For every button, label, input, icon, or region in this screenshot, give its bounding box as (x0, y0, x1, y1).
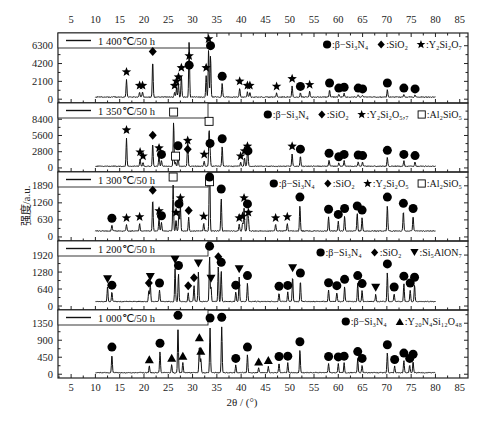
circle-marker-icon (399, 199, 408, 208)
bottom-x-tick-label: 40 (236, 382, 247, 393)
triangle-down-marker-icon (235, 265, 244, 273)
top-x-tick-label: 5 (68, 14, 73, 25)
bottom-x-tick-label: 50 (284, 382, 295, 393)
triangle-down-marker-icon (371, 284, 380, 292)
top-x-tick-label: 55 (309, 14, 320, 25)
circle-marker-icon (296, 268, 305, 277)
star-marker-icon (199, 211, 209, 220)
y-tick-label: 4200 (32, 58, 53, 69)
top-x-tick-label: 70 (382, 14, 393, 25)
circle-marker-icon (217, 258, 226, 267)
circle-marker-icon (218, 134, 227, 143)
top-x-tick-label: 10 (90, 14, 101, 25)
circle-marker-icon (411, 151, 420, 160)
star-marker-icon (417, 40, 426, 48)
triangle-up-marker-icon (178, 352, 187, 360)
triangle-up-marker-icon (167, 354, 176, 362)
y-tick-label: 640 (37, 284, 53, 295)
top-x-tick-label: 75 (406, 14, 417, 25)
top-x-axis: 510152025303540455055606570758085 (68, 14, 465, 25)
y-tick-label: 1350 (32, 318, 53, 329)
bottom-x-tick-label: 45 (260, 382, 271, 393)
circle-marker-icon (243, 199, 252, 208)
bottom-x-tick-label: 85 (454, 382, 465, 393)
y-tick-label: 5600 (32, 130, 53, 141)
bottom-x-axis: 510152025303540455055606570758085 (68, 382, 465, 393)
triangle-down-marker-icon (207, 275, 216, 283)
star-marker-icon (177, 63, 187, 72)
circle-marker-icon (316, 248, 324, 256)
circle-marker-icon (410, 273, 419, 282)
circle-marker-icon (231, 354, 240, 363)
circle-marker-icon (157, 211, 166, 220)
circle-marker-icon (411, 84, 420, 93)
condition-label: 1 200℃/50 h (98, 244, 156, 255)
diamond-marker-icon (371, 248, 378, 256)
legend-label: :Y₂₀N₄Si₁₂O₄₈ (405, 316, 463, 327)
circle-marker-icon (324, 205, 333, 214)
circle-marker-icon (206, 313, 215, 322)
square-marker-icon (205, 117, 213, 125)
legend-label: :SiO₂ (386, 39, 408, 50)
diamond-marker-icon (185, 206, 193, 215)
circle-marker-icon (107, 214, 116, 223)
circle-marker-icon (325, 79, 334, 88)
star-marker-icon (283, 212, 293, 221)
top-x-tick-label: 25 (163, 14, 174, 25)
xrd-stacked-chart: 510152025303540455055606570758085 021004… (0, 0, 484, 425)
legend-label: :Al₂SiO₅ (427, 109, 462, 120)
triangle-up-marker-icon (145, 355, 154, 363)
top-x-tick-label: 15 (114, 14, 125, 25)
phase-legend: :Al₂SiO₅:Y₂Si₂O₅,₇:SiO₂:β−Si₃N₄ (264, 109, 462, 120)
circle-marker-icon (325, 149, 334, 158)
triangle-up-marker-icon (264, 356, 273, 364)
circle-marker-icon (243, 146, 252, 155)
circle-marker-icon (283, 352, 292, 361)
circle-marker-icon (390, 355, 399, 364)
circle-marker-icon (409, 204, 418, 213)
circle-marker-icon (358, 151, 367, 160)
star-marker-icon (135, 212, 145, 221)
y-tick-label: 2100 (32, 76, 53, 87)
bottom-x-tick-label: 60 (333, 382, 344, 393)
y-tick-label: 1920 (32, 250, 53, 261)
diamond-marker-icon (324, 179, 331, 187)
panel-2: 02800560084001 350℃/50 h:Al₂SiO₅:Y₂Si₂O₅… (32, 103, 468, 173)
square-marker-icon (169, 173, 177, 181)
phase-legend: :Y₂₀N₄Si₁₂O₄₈:β−Si₃N₄ (342, 316, 463, 327)
bottom-x-tick-label: 15 (114, 382, 125, 393)
square-marker-icon (170, 108, 178, 116)
circle-marker-icon (155, 279, 164, 288)
circle-marker-icon (399, 84, 408, 93)
condition-label: 1 300℃/50 h (98, 175, 156, 186)
star-marker-icon (122, 213, 132, 222)
circle-marker-icon (383, 79, 392, 88)
bottom-x-tick-label: 25 (163, 382, 174, 393)
circle-marker-icon (243, 343, 252, 352)
circle-marker-icon (340, 150, 349, 159)
y-tick-label: 2800 (32, 146, 53, 157)
top-x-tick-label: 45 (260, 14, 271, 25)
star-marker-icon (363, 179, 372, 187)
circle-marker-icon (270, 179, 278, 187)
star-marker-icon (272, 81, 282, 90)
top-x-tick-label: 80 (430, 14, 441, 25)
xrd-pattern-line (95, 123, 435, 167)
circle-marker-icon (295, 193, 304, 202)
y-tick-label: 0 (48, 369, 53, 380)
y-tick-label: 630 (37, 214, 53, 225)
star-marker-icon (122, 125, 132, 134)
circle-marker-icon (218, 72, 227, 81)
bottom-x-tick-label: 80 (430, 382, 441, 393)
y-tick-label: 0 (48, 94, 53, 105)
bottom-x-tick-label: 35 (212, 382, 223, 393)
legend-label: :SiO₂ (327, 109, 349, 120)
circle-marker-icon (283, 281, 292, 290)
top-x-tick-label: 50 (284, 14, 295, 25)
circle-marker-icon (358, 279, 367, 288)
circle-marker-icon (399, 150, 408, 159)
circle-marker-icon (296, 82, 305, 91)
legend-label: :Y₂Si₂O₅ (373, 178, 409, 189)
circle-marker-icon (206, 41, 215, 50)
circle-marker-icon (231, 281, 240, 290)
